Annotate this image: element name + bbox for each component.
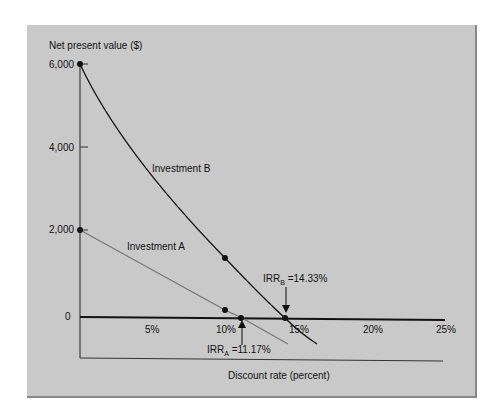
y-axis-label: Net present value ($) (49, 40, 142, 51)
x-tick-20: 20% (363, 324, 383, 335)
y-tick-4000: 4,000 (49, 142, 74, 153)
x-axis-label: Discount rate (percent) (228, 370, 330, 381)
zero-line (80, 317, 445, 320)
investment-b-line (80, 64, 317, 344)
y-tick-2000: 2,000 (49, 224, 74, 235)
x-tick-5: 5% (145, 324, 160, 335)
x-tick-15: 15% (289, 324, 309, 335)
irr-b-label: IRRB =14.33% (263, 273, 328, 286)
npv-chart: Net present value ($) 6,000 4,000 2,000 … (0, 0, 501, 420)
y-tick-6000: 6,000 (49, 59, 74, 70)
x-tick-25: 25% (436, 324, 456, 335)
investment-a-label: Investment A (127, 241, 185, 252)
investment-b-label: Investment B (152, 163, 211, 174)
bottom-axis (80, 358, 443, 361)
irr-a-label: IRRA =11.17% (207, 344, 271, 357)
x-tick-10: 10% (216, 324, 236, 335)
y-tick-0: 0 (65, 311, 71, 322)
